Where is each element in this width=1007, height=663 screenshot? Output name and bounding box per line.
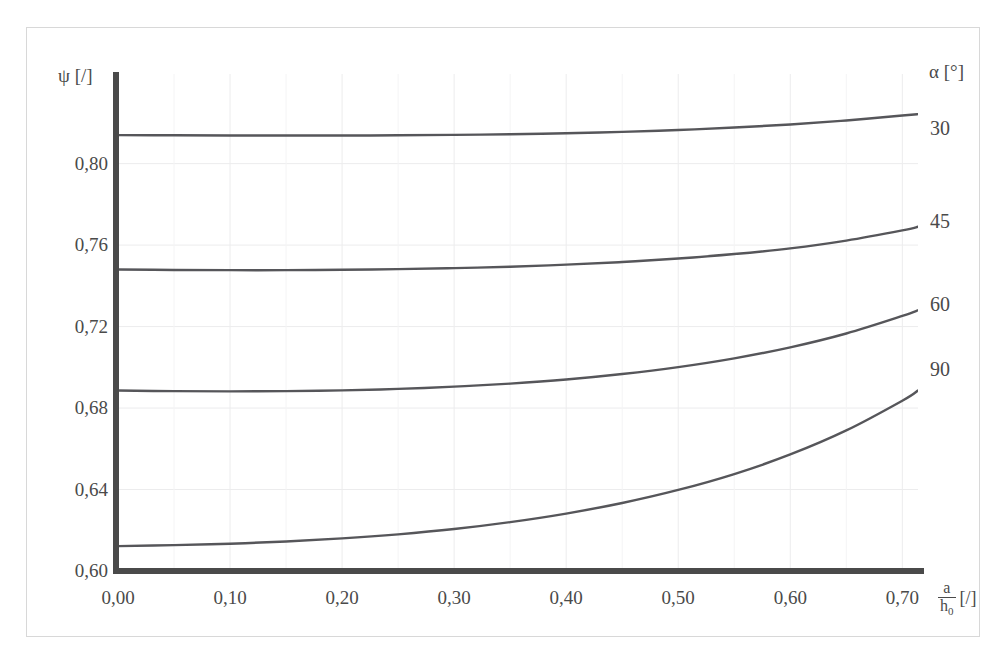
curve-alpha-30 <box>118 114 918 135</box>
x-axis-tick-label: 0,60 <box>750 588 830 607</box>
x-axis-tick-label: 0,20 <box>302 588 382 607</box>
curve-alpha-90 <box>118 391 918 547</box>
x-axis-tick-label: 0,30 <box>414 588 494 607</box>
x-axis-title-fraction: a h0 <box>938 580 956 618</box>
x-axis-title-numerator: a <box>938 580 956 597</box>
y-axis-tick-label: 0,76 <box>48 235 108 254</box>
legend-label-90: 90 <box>930 359 950 379</box>
legend-title: α [°] <box>929 62 964 81</box>
y-axis-tick-labels: 0,800,760,720,680,640,60 <box>38 0 108 663</box>
plot-area <box>118 74 918 571</box>
x-axis-tick-label: 0,00 <box>78 588 158 607</box>
x-axis-title-unit: [/] <box>960 588 977 609</box>
chart-canvas <box>118 74 918 571</box>
y-axis-tick-label: 0,80 <box>48 154 108 173</box>
y-axis-tick-label: 0,68 <box>48 398 108 417</box>
figure-page: · · ψ [/] 0,800,760,720,680,640,60 0,000… <box>0 0 1007 663</box>
clipped-caption-text: · · <box>0 0 1007 14</box>
x-axis-tick-label: 0,50 <box>638 588 718 607</box>
x-axis-line <box>113 568 924 574</box>
x-axis-title-denominator: h0 <box>938 598 956 618</box>
x-axis-title: a h0 [/] <box>938 580 977 618</box>
legend-label-30: 30 <box>930 118 950 138</box>
x-axis-tick-label: 0,40 <box>526 588 606 607</box>
curve-alpha-60 <box>118 310 918 391</box>
clipped-caption-glyphs: · · <box>150 0 163 5</box>
y-axis-tick-label: 0,64 <box>48 480 108 499</box>
y-axis-line <box>113 72 119 573</box>
curve-alpha-45 <box>118 227 918 270</box>
x-axis-tick-label: 0,10 <box>190 588 270 607</box>
y-axis-tick-label: 0,72 <box>48 317 108 336</box>
grid-lines <box>118 74 918 571</box>
legend-label-45: 45 <box>930 211 950 231</box>
y-axis-tick-label: 0,60 <box>48 561 108 580</box>
legend-label-60: 60 <box>930 294 950 314</box>
x-axis-tick-label: 0,70 <box>862 588 942 607</box>
